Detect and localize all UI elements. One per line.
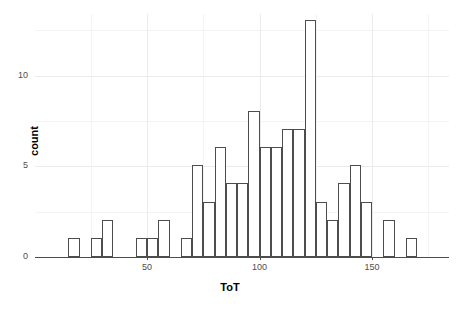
x-tick-label-150: 150 <box>352 262 392 272</box>
y-tick-label-0: 0 <box>4 251 28 261</box>
histogram-bar <box>338 183 349 257</box>
x-tick-150 <box>372 257 373 260</box>
histogram-bar <box>237 183 248 257</box>
histogram-bar <box>293 129 304 257</box>
histogram-bar <box>260 147 271 257</box>
histogram-bar <box>203 202 214 257</box>
histogram-bar <box>147 238 158 257</box>
histogram-bar <box>327 220 338 257</box>
x-tick-label-100: 100 <box>240 262 280 272</box>
plot-panel <box>35 14 449 257</box>
histogram-bar <box>91 238 102 257</box>
histogram-bar <box>361 202 372 257</box>
histogram-bar <box>282 129 293 257</box>
gridline-minor-y-7.5 <box>35 121 449 122</box>
gridline-minor-x-25 <box>91 14 92 257</box>
histogram-bar <box>215 147 226 257</box>
histogram-bar <box>305 20 316 257</box>
histogram-bar <box>192 165 203 257</box>
x-axis-label: ToT <box>0 281 460 293</box>
y-tick-label-5: 5 <box>4 160 28 170</box>
gridline-x-150 <box>372 14 373 257</box>
x-tick-100 <box>260 257 261 260</box>
y-tick-label-10: 10 <box>4 70 28 80</box>
gridline-minor-x-175 <box>428 14 429 257</box>
histogram-bar <box>248 111 259 257</box>
histogram-bar <box>406 238 417 257</box>
histogram-chart: 50100150 0510 ToT count <box>0 0 460 311</box>
x-tick-label-50: 50 <box>127 262 167 272</box>
histogram-bar <box>136 238 147 257</box>
histogram-bar <box>316 202 327 257</box>
histogram-bar <box>350 165 361 257</box>
gridline-y-10 <box>35 76 449 77</box>
x-tick-50 <box>147 257 148 260</box>
x-axis-line <box>35 257 449 258</box>
gridline-minor-y-12.5 <box>35 30 449 31</box>
histogram-bar <box>383 220 394 257</box>
histogram-bar <box>181 238 192 257</box>
histogram-bar <box>271 147 282 257</box>
histogram-bar <box>226 183 237 257</box>
gridline-x-50 <box>147 14 148 257</box>
y-axis-label: count <box>28 101 40 181</box>
histogram-bar <box>68 238 79 257</box>
gridline-y-5 <box>35 166 449 167</box>
histogram-bar <box>158 220 169 257</box>
histogram-bar <box>102 220 113 257</box>
